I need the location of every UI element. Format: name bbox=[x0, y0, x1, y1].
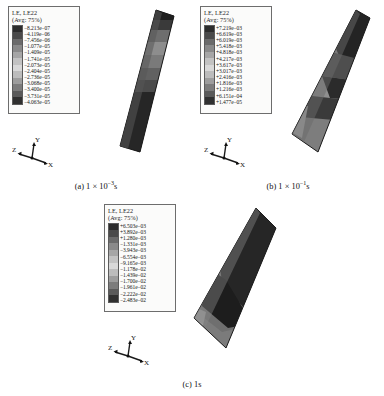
triad-label-x: X bbox=[48, 161, 53, 169]
triad-label-x: X bbox=[144, 359, 149, 367]
legend-value: −1.961e−02 bbox=[120, 284, 146, 290]
caption-a: (a) 1 × 10−3s bbox=[0, 178, 192, 192]
legend-value: +1.216e−03 bbox=[216, 86, 242, 92]
legend-swatches-b bbox=[204, 25, 215, 105]
legend-body-b: +7.219e−03 +6.619e−03 +6.019e−03 +5.418e… bbox=[204, 25, 268, 105]
panel-a: LE, LE22 (Avg: 75%) −8.213e−07 −4.119e−0… bbox=[0, 0, 192, 198]
caption-b-suffix: s bbox=[306, 182, 309, 191]
legend-value: −3.731e−05 bbox=[24, 93, 50, 99]
legend-value: +3.017e−03 bbox=[216, 68, 242, 74]
legend-swatches-c bbox=[108, 223, 119, 303]
legend-value: −4.119e−06 bbox=[24, 31, 50, 37]
legend-value: −1.331e−03 bbox=[120, 241, 146, 247]
legend-value: −2.073e−05 bbox=[24, 62, 50, 68]
panel-c: LE, LE22 (Avg: 75%) +6.503e−03 +3.892e−0… bbox=[96, 198, 288, 396]
legend-value: −2.404e−05 bbox=[24, 68, 50, 74]
legend-value: +6.503e−03 bbox=[120, 223, 146, 229]
legend-swatch bbox=[13, 97, 22, 104]
legend-value: +6.151e−04 bbox=[216, 93, 242, 99]
legend-body-c: +6.503e−03 +3.892e−03 +1.280e−03 −1.331e… bbox=[108, 223, 172, 303]
contour-model-c bbox=[182, 206, 282, 356]
triad-label-z: Z bbox=[108, 344, 112, 352]
caption-a-suffix: s bbox=[114, 182, 117, 191]
legend-value: −3.400e−05 bbox=[24, 86, 50, 92]
legend-value: −3.068e−05 bbox=[24, 80, 50, 86]
legend-swatch bbox=[109, 295, 118, 302]
legend-swatch bbox=[205, 97, 214, 104]
caption-c: (c) 1s bbox=[96, 376, 288, 390]
legend-title-c: LE, LE22 bbox=[108, 207, 172, 214]
legend-value: +3.892e−03 bbox=[120, 229, 146, 235]
panel-b: LE, LE22 (Avg: 75%) +7.219e−03 +6.619e−0… bbox=[192, 0, 384, 198]
legend-value: +6.019e−03 bbox=[216, 37, 242, 43]
legend-value: +5.418e−03 bbox=[216, 43, 242, 49]
legend-subtitle-a: (Avg: 75%) bbox=[12, 16, 76, 23]
legend-value: +1.477e−05 bbox=[216, 99, 242, 105]
caption-a-prefix: (a) 1 × 10 bbox=[75, 182, 108, 191]
legend-value: −4.063e−05 bbox=[24, 99, 50, 105]
legend-body-a: −8.213e−07 −4.119e−06 −7.456e−06 −1.077e… bbox=[12, 25, 76, 105]
legend-value: +7.219e−03 bbox=[216, 25, 242, 31]
contour-model-b bbox=[278, 6, 378, 158]
legend-values-c: +6.503e−03 +3.892e−03 +1.280e−03 −1.331e… bbox=[120, 223, 146, 303]
legend-value: −2.222e−02 bbox=[120, 291, 146, 297]
legend-value: −1.439e−02 bbox=[120, 272, 146, 278]
legend-value: −1.741e−05 bbox=[24, 56, 50, 62]
legend-values-a: −8.213e−07 −4.119e−06 −7.456e−06 −1.077e… bbox=[24, 25, 50, 105]
legend-value: −3.943e−03 bbox=[120, 247, 146, 253]
legend-value: +1.816e−03 bbox=[216, 80, 242, 86]
legend-subtitle-c: (Avg: 75%) bbox=[108, 214, 172, 221]
contour-model-a bbox=[100, 6, 186, 158]
legend-value: −1.178e−02 bbox=[120, 266, 146, 272]
caption-c-prefix: (c) 1s bbox=[183, 380, 202, 389]
triad-label-z: Z bbox=[12, 146, 16, 154]
legend-values-b: +7.219e−03 +6.619e−03 +6.019e−03 +5.418e… bbox=[216, 25, 242, 105]
legend-value: −1.700e−02 bbox=[120, 278, 146, 284]
legend-value: −8.213e−07 bbox=[24, 25, 50, 31]
triad-label-x: X bbox=[240, 161, 245, 169]
legend-title-b: LE, LE22 bbox=[204, 9, 268, 16]
legend-swatches-a bbox=[12, 25, 23, 105]
legend-value: −6.554e−03 bbox=[120, 254, 146, 260]
legend-value: −2.736e−05 bbox=[24, 74, 50, 80]
legend-value: −7.456e−06 bbox=[24, 37, 50, 43]
legend-value: −2.483e−02 bbox=[120, 297, 146, 303]
axis-triad-a: Y X Z bbox=[12, 136, 56, 170]
legend-subtitle-b: (Avg: 75%) bbox=[204, 16, 268, 23]
legend-value: +6.619e−03 bbox=[216, 31, 242, 37]
triad-label-y: Y bbox=[35, 136, 40, 144]
triad-label-z: Z bbox=[204, 146, 208, 154]
legend-box-c: LE, LE22 (Avg: 75%) +6.503e−03 +3.892e−0… bbox=[104, 204, 176, 312]
legend-title-a: LE, LE22 bbox=[12, 9, 76, 16]
legend-value: −1.077e−05 bbox=[24, 43, 50, 49]
legend-box-a: LE, LE22 (Avg: 75%) −8.213e−07 −4.119e−0… bbox=[8, 6, 80, 114]
triad-label-y: Y bbox=[131, 334, 136, 342]
legend-value: +2.416e−03 bbox=[216, 74, 242, 80]
caption-b-prefix: (b) 1 × 10 bbox=[267, 182, 300, 191]
legend-value: +4.818e−03 bbox=[216, 49, 242, 55]
triad-label-y: Y bbox=[227, 136, 232, 144]
axis-triad-c: Y X Z bbox=[108, 334, 152, 368]
legend-value: −1.409e−05 bbox=[24, 49, 50, 55]
legend-value: −9.165e−03 bbox=[120, 260, 146, 266]
axis-triad-b: Y X Z bbox=[204, 136, 248, 170]
legend-box-b: LE, LE22 (Avg: 75%) +7.219e−03 +6.619e−0… bbox=[200, 6, 272, 114]
legend-value: +1.280e−03 bbox=[120, 235, 146, 241]
legend-value: +3.617e−03 bbox=[216, 62, 242, 68]
legend-value: +4.217e−03 bbox=[216, 56, 242, 62]
caption-b: (b) 1 × 10−1s bbox=[192, 178, 384, 192]
